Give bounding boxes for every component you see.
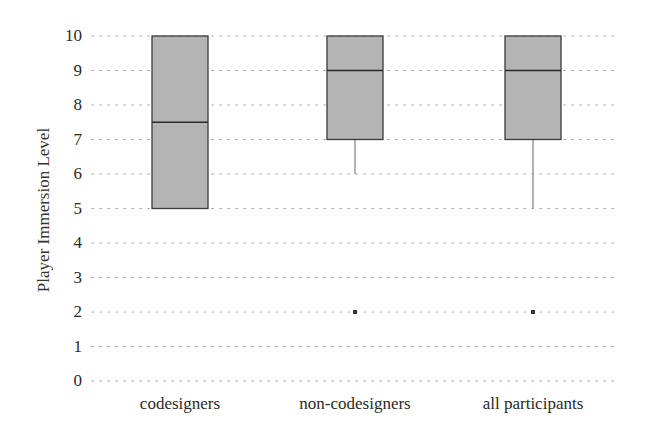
y-axis-label: Player Immersion Level	[34, 128, 54, 292]
y-tick-label: 7	[74, 130, 83, 150]
y-tick-label: 4	[74, 233, 83, 253]
x-tick-label: non-codesigners	[299, 394, 410, 414]
y-tick-label: 3	[74, 268, 83, 288]
outlier-marker	[353, 310, 357, 314]
box-iqr	[505, 36, 561, 140]
box-iqr	[327, 36, 383, 140]
y-tick-label: 6	[74, 164, 83, 184]
x-tick-label: codesigners	[140, 394, 220, 414]
plot-area	[0, 0, 650, 436]
y-tick-label: 5	[74, 199, 83, 219]
x-tick-label: all participants	[483, 394, 584, 414]
outlier-marker	[531, 310, 535, 314]
y-tick-label: 0	[74, 371, 83, 391]
y-tick-label: 10	[65, 26, 82, 46]
box-plot-chart: Player Immersion Level 012345678910 code…	[0, 0, 650, 436]
y-tick-label: 9	[74, 61, 83, 81]
y-tick-label: 1	[74, 337, 83, 357]
y-tick-label: 2	[74, 302, 83, 322]
y-tick-label: 8	[74, 95, 83, 115]
